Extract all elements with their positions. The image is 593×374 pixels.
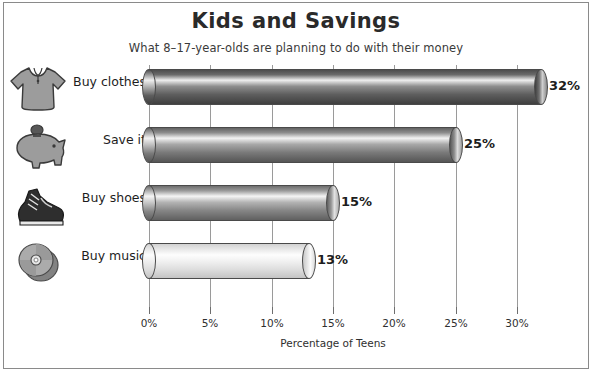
- bar-cap-right-buy-music: [302, 243, 316, 279]
- category-label-buy-music: Buy music: [26, 248, 146, 263]
- bar-cap-right-buy-clothes: [534, 69, 548, 105]
- tick-mark-25: [456, 307, 457, 314]
- tick-label-25: 25%: [434, 317, 478, 329]
- tick-mark-10: [272, 307, 273, 314]
- tick-mark-0: [149, 307, 150, 314]
- bar-value-buy-clothes: 32%: [549, 78, 580, 93]
- x-axis-label: Percentage of Teens: [149, 337, 517, 349]
- tick-label-30: 30%: [495, 317, 539, 329]
- bar-row-buy-clothes: 32%: [149, 69, 541, 105]
- chart-subtitle: What 8–17-year-olds are planning to do w…: [4, 41, 588, 55]
- bar-cap-right-save-it: [449, 127, 463, 163]
- bar-row-save-it: 25%: [149, 127, 456, 163]
- plot-area: 32% 25% 15% 13% 0%: [149, 65, 517, 307]
- tick-label-5: 5%: [188, 317, 232, 329]
- tick-label-20: 20%: [372, 317, 416, 329]
- bar-buy-shoes: [149, 185, 333, 221]
- bar-cap-right-buy-shoes: [326, 185, 340, 221]
- bar-row-buy-music: 13%: [149, 243, 309, 279]
- tick-mark-20: [394, 307, 395, 314]
- bar-cap-left-buy-shoes: [142, 185, 156, 221]
- chart-frame: Kids and Savings What 8–17-year-olds are…: [3, 2, 589, 369]
- tick-mark-5: [210, 307, 211, 314]
- bar-cap-left-save-it: [142, 127, 156, 163]
- bar-cap-left-buy-clothes: [142, 69, 156, 105]
- chart-title: Kids and Savings: [4, 9, 588, 33]
- bar-buy-clothes: [149, 69, 541, 105]
- tick-label-15: 15%: [311, 317, 355, 329]
- bar-buy-music: [149, 243, 309, 279]
- bar-row-buy-shoes: 15%: [149, 185, 333, 221]
- tick-mark-15: [333, 307, 334, 314]
- tick-mark-30: [517, 307, 518, 314]
- bar-save-it: [149, 127, 456, 163]
- tick-label-10: 10%: [250, 317, 294, 329]
- category-label-buy-clothes: Buy clothes: [26, 74, 146, 89]
- category-label-save-it: Save it: [26, 132, 146, 147]
- bar-value-buy-shoes: 15%: [341, 194, 372, 209]
- category-label-buy-shoes: Buy shoes: [26, 190, 146, 205]
- bar-cap-left-buy-music: [142, 243, 156, 279]
- category-label-column: Buy clothes Save it Buy shoes Buy music: [24, 65, 146, 307]
- bar-value-save-it: 25%: [464, 136, 495, 151]
- bar-value-buy-music: 13%: [317, 252, 348, 267]
- tick-label-0: 0%: [127, 317, 171, 329]
